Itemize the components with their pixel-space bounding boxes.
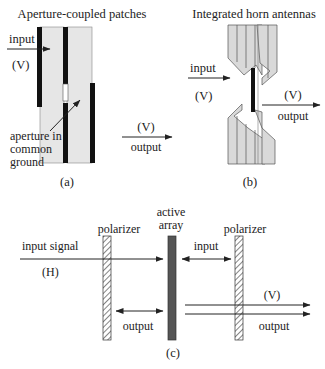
panel-a-caption: (a) xyxy=(60,175,74,189)
input-signal-pol: (H) xyxy=(42,265,59,279)
panel-c-output-right-label: output xyxy=(259,319,290,333)
active-device xyxy=(251,68,255,112)
substrate-right xyxy=(67,27,92,163)
panel-b-output-label: output xyxy=(278,109,309,123)
active-array xyxy=(168,236,176,340)
panel-a-aperture-coupled-patches: Aperture-coupled patches input (V) apert… xyxy=(7,7,172,189)
panel-a-input-label: input xyxy=(9,32,35,46)
ground-plane-upper xyxy=(63,27,68,85)
active-array-label-line2: array xyxy=(159,218,184,232)
left-polarizer xyxy=(103,236,111,340)
right-polarizer-label: polarizer xyxy=(224,222,267,236)
panel-b-title: Integrated horn antennas xyxy=(192,7,316,21)
input-patch xyxy=(37,27,42,107)
panel-b-input-label: input xyxy=(190,61,216,75)
panel-c-output-right-pol: (V) xyxy=(264,288,281,302)
left-polarizer-label: polarizer xyxy=(98,222,141,236)
input-signal-label: input signal xyxy=(22,239,79,253)
upper-horn-right xyxy=(257,25,277,85)
panel-a-input-pol: (V) xyxy=(12,58,29,72)
active-array-label-line1: active xyxy=(157,205,186,219)
right-polarizer xyxy=(235,236,243,340)
panel-a-output-label: output xyxy=(131,140,162,154)
panel-b-input-pol: (V) xyxy=(195,89,212,103)
aperture-label-line2: common xyxy=(10,142,52,156)
panel-c-quasi-optical-system: polarizer active array polarizer input s… xyxy=(20,205,310,360)
panel-a-title: Aperture-coupled patches xyxy=(18,7,147,21)
aperture-label-line1: aperture in xyxy=(10,129,62,143)
upper-horn-left xyxy=(228,25,262,75)
panel-b-caption: (b) xyxy=(243,175,258,189)
output-patch xyxy=(90,83,95,163)
panel-c-input-label: input xyxy=(194,239,219,253)
quasi-optical-diagram: Aperture-coupled patches input (V) apert… xyxy=(0,0,325,369)
panel-c-caption: (c) xyxy=(166,346,180,360)
panel-b-integrated-horn-antennas: Integrated horn antennas input (V) (V) o… xyxy=(188,7,320,189)
aperture xyxy=(63,84,68,101)
panel-b-output-pol: (V) xyxy=(284,88,301,102)
panel-a-output-pol: (V) xyxy=(137,120,154,134)
panel-c-output-left-label: output xyxy=(123,319,154,333)
ground-plane-lower xyxy=(63,103,68,163)
aperture-label-line3: ground xyxy=(10,155,44,169)
